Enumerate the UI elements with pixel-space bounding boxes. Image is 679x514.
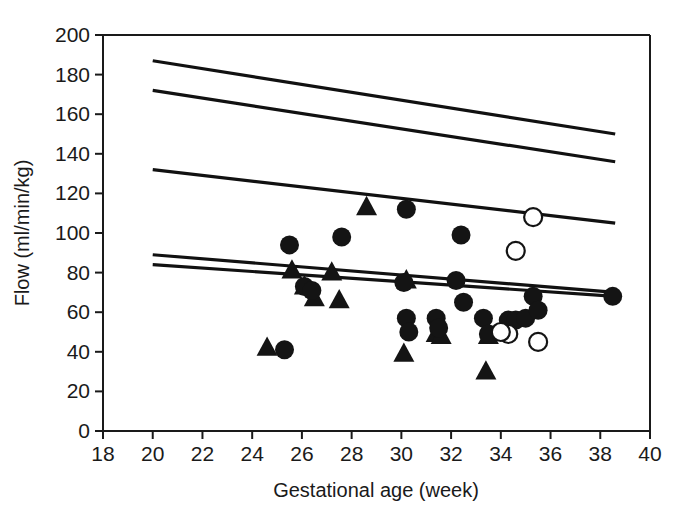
y-axis-ticks bbox=[95, 35, 103, 431]
data-point-open-circle bbox=[507, 242, 525, 260]
data-point-filled-circle bbox=[447, 271, 466, 290]
y-tick-label: 200 bbox=[55, 23, 90, 46]
x-axis-ticks bbox=[103, 431, 650, 439]
reference-line-middle bbox=[153, 170, 615, 223]
x-axis-title: Gestational age (week) bbox=[273, 479, 479, 501]
data-point-open-circle bbox=[529, 333, 547, 351]
y-tick-label: 20 bbox=[67, 379, 90, 402]
data-point-open-circle bbox=[524, 208, 542, 226]
data-point-filled-circle bbox=[399, 323, 418, 342]
data-point-filled-circle bbox=[397, 200, 416, 219]
data-point-filled-circle bbox=[429, 319, 448, 338]
x-tick-label: 36 bbox=[539, 442, 562, 465]
scatter-plot: 020406080100120140160180200 182022242628… bbox=[0, 0, 679, 514]
data-point-filled-triangle bbox=[356, 196, 377, 215]
x-tick-label: 32 bbox=[439, 442, 462, 465]
y-axis-tick-labels: 020406080100120140160180200 bbox=[55, 23, 90, 442]
x-tick-label: 22 bbox=[191, 442, 214, 465]
x-tick-label: 30 bbox=[390, 442, 413, 465]
y-tick-label: 180 bbox=[55, 63, 90, 86]
x-tick-label: 18 bbox=[91, 442, 114, 465]
x-tick-label: 28 bbox=[340, 442, 363, 465]
x-tick-label: 40 bbox=[638, 442, 661, 465]
x-tick-label: 38 bbox=[589, 442, 612, 465]
y-tick-label: 120 bbox=[55, 181, 90, 204]
data-point-filled-circle bbox=[452, 225, 471, 244]
y-tick-label: 0 bbox=[78, 419, 90, 442]
data-point-filled-circle bbox=[275, 340, 294, 359]
x-axis-tick-labels: 182022242628303234363840 bbox=[91, 442, 661, 465]
reference-lines bbox=[153, 61, 615, 297]
y-tick-label: 100 bbox=[55, 221, 90, 244]
data-point-filled-triangle bbox=[281, 259, 302, 278]
y-tick-label: 80 bbox=[67, 261, 90, 284]
series-open-circle bbox=[492, 208, 547, 351]
y-tick-label: 40 bbox=[67, 340, 90, 363]
reference-line-lower-lower bbox=[153, 265, 615, 297]
y-tick-label: 160 bbox=[55, 102, 90, 125]
x-tick-label: 20 bbox=[141, 442, 164, 465]
data-point-filled-circle bbox=[280, 235, 299, 254]
y-tick-label: 60 bbox=[67, 300, 90, 323]
chart-figure: 020406080100120140160180200 182022242628… bbox=[0, 0, 679, 514]
data-point-filled-circle bbox=[454, 293, 473, 312]
data-point-filled-circle bbox=[529, 301, 548, 320]
data-point-open-circle bbox=[492, 323, 510, 341]
reference-line-upper-inner bbox=[153, 90, 615, 161]
data-point-filled-triangle bbox=[475, 360, 496, 379]
x-tick-label: 34 bbox=[489, 442, 513, 465]
data-point-filled-circle bbox=[603, 287, 622, 306]
x-tick-label: 26 bbox=[290, 442, 313, 465]
x-tick-label: 24 bbox=[241, 442, 265, 465]
reference-line-upper-outer bbox=[153, 61, 615, 134]
data-point-filled-circle bbox=[302, 281, 321, 300]
data-point-filled-triangle bbox=[393, 342, 414, 361]
data-point-filled-triangle bbox=[329, 289, 350, 308]
data-point-filled-triangle bbox=[257, 336, 278, 355]
y-axis-title: Flow (ml/min/kg) bbox=[11, 160, 33, 307]
reference-line-lower-upper bbox=[153, 255, 615, 293]
data-point-filled-circle bbox=[394, 273, 413, 292]
y-tick-label: 140 bbox=[55, 142, 90, 165]
data-point-filled-circle bbox=[332, 227, 351, 246]
